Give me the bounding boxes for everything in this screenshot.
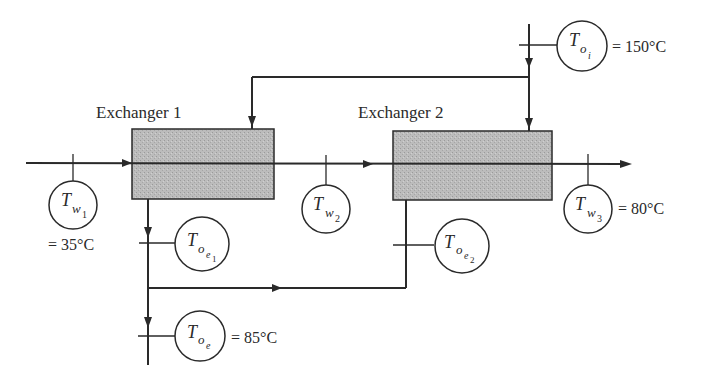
svg-text:o: o [580,41,587,56]
exchanger-2: Exchanger 2 [358,103,552,200]
svg-text:o: o [198,332,205,347]
sensor-t-w3: T w 3 = 80°C [564,154,664,233]
arrow-down-icon [144,317,152,328]
arrow-right-icon [363,160,373,168]
t-w3-value: = 80°C [618,200,664,217]
t-oe-value: = 85°C [231,329,277,346]
exchanger-2-label: Exchanger 2 [358,103,443,122]
sensor-t-oe1: T o e 1 [139,217,229,271]
t-w1-value: = 35°C [48,236,94,253]
sensor-t-oi: T o i = 150°C [519,21,666,71]
exchanger-1: Exchanger 1 [96,103,274,199]
svg-text:e: e [206,249,211,260]
t-oi-value: = 150°C [612,38,666,55]
svg-text:w: w [325,205,334,220]
heat-exchanger-diagram: Exchanger 1 Exchanger 2 T o i = 150°C [0,0,708,381]
exchanger-1-label: Exchanger 1 [96,103,181,122]
arrow-right-icon [272,284,282,292]
svg-text:i: i [588,50,591,61]
exchanger-2-box [393,131,552,200]
svg-text:3: 3 [597,213,602,224]
sensor-t-w2: T w 2 [302,155,350,233]
arrow-down-icon [144,227,152,238]
arrow-down-icon [525,118,533,129]
arrow-right-icon [122,159,132,167]
arrow-down-icon [525,58,533,68]
arrow-down-icon [248,116,256,127]
svg-text:o: o [198,241,205,256]
svg-text:w: w [72,201,81,216]
svg-text:2: 2 [470,255,475,265]
sensor-t-w1: T w 1 = 35°C [48,154,97,253]
arrow-right-icon [620,160,632,168]
svg-text:2: 2 [335,213,340,224]
svg-text:1: 1 [82,209,87,220]
svg-text:o: o [456,242,463,257]
svg-text:w: w [587,205,596,220]
svg-text:e: e [464,250,469,261]
sensor-t-oe2: T o e 2 [393,219,489,273]
sensor-t-oe: T o e = 85°C [138,311,277,361]
svg-text:e: e [206,340,211,351]
svg-text:1: 1 [212,254,217,264]
